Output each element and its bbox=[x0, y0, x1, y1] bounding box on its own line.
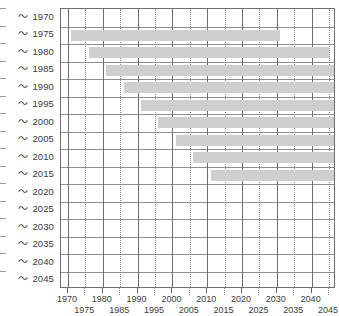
row-label-year: 1970 bbox=[32, 11, 54, 22]
row-label-year: 2015 bbox=[32, 168, 54, 179]
x-label-2005: 2005 bbox=[179, 305, 199, 315]
bar-2000 bbox=[158, 117, 335, 128]
row-label-2010: 〜 2010 bbox=[0, 152, 54, 162]
tilde-icon: 〜 bbox=[18, 46, 31, 57]
x-tick-minor-2025 bbox=[258, 288, 259, 295]
x-label-2015: 2015 bbox=[214, 305, 234, 315]
tilde-icon: 〜 bbox=[18, 186, 31, 197]
row-label-year: 2035 bbox=[32, 238, 54, 249]
tilde-icon: 〜 bbox=[18, 151, 31, 162]
bar-2010 bbox=[193, 152, 335, 163]
x-label-1980: 1980 bbox=[92, 294, 112, 304]
tilde-icon: 〜 bbox=[18, 238, 31, 249]
bar-1980 bbox=[89, 47, 329, 58]
gridline-minor-2045 bbox=[329, 9, 330, 287]
x-tick-minor-1975 bbox=[84, 288, 85, 295]
row-label-2000: 〜 2000 bbox=[0, 117, 54, 127]
x-tick-major-2010 bbox=[206, 288, 207, 293]
bar-2015 bbox=[211, 170, 335, 181]
row-label-1995: 〜 1995 bbox=[0, 99, 54, 109]
x-label-2035: 2035 bbox=[283, 305, 303, 315]
x-tick-minor-1985 bbox=[119, 288, 120, 295]
tilde-icon: 〜 bbox=[18, 63, 31, 74]
x-axis: 1970198019902000201020202030204019751985… bbox=[60, 288, 335, 316]
row-label-1985: 〜 1985 bbox=[0, 64, 54, 74]
row-label-year: 2045 bbox=[32, 273, 54, 284]
tilde-icon: 〜 bbox=[18, 116, 31, 127]
row-label-2035: 〜 2035 bbox=[0, 239, 54, 249]
row-label-year: 1975 bbox=[32, 28, 54, 39]
row-label-year: 2030 bbox=[32, 221, 54, 232]
x-tick-minor-2045 bbox=[328, 288, 329, 295]
tilde-icon: 〜 bbox=[18, 221, 31, 232]
tilde-icon: 〜 bbox=[18, 28, 31, 39]
tilde-icon: 〜 bbox=[18, 11, 31, 22]
x-label-2030: 2030 bbox=[266, 294, 286, 304]
gridline-minor-1975 bbox=[85, 9, 86, 287]
row-label-year: 2025 bbox=[32, 203, 54, 214]
row-label-2020: 〜 2020 bbox=[0, 187, 54, 197]
tilde-icon: 〜 bbox=[18, 256, 31, 267]
bar-1985 bbox=[106, 65, 335, 76]
gantt-chart: 〜 1970〜 1975〜 1980〜 1985〜 1990〜 1995〜 20… bbox=[0, 0, 339, 316]
x-tick-major-1980 bbox=[102, 288, 103, 293]
bar-2005 bbox=[176, 135, 335, 146]
row-label-year: 2005 bbox=[32, 133, 54, 144]
x-tick-major-1990 bbox=[137, 288, 138, 293]
x-label-1985: 1985 bbox=[109, 305, 129, 315]
x-label-1995: 1995 bbox=[144, 305, 164, 315]
x-tick-major-2000 bbox=[171, 288, 172, 293]
row-label-1990: 〜 1990 bbox=[0, 82, 54, 92]
row-label-1970: 〜 1970 bbox=[0, 12, 54, 22]
x-label-2045: 2045 bbox=[318, 305, 338, 315]
x-label-2040: 2040 bbox=[301, 294, 321, 304]
row-label-2040: 〜 2040 bbox=[0, 257, 54, 267]
bar-1995 bbox=[141, 100, 335, 111]
tilde-icon: 〜 bbox=[18, 273, 31, 284]
row-label-year: 1980 bbox=[32, 46, 54, 57]
bar-1975 bbox=[71, 30, 280, 41]
x-label-2000: 2000 bbox=[161, 294, 181, 304]
row-label-2015: 〜 2015 bbox=[0, 169, 54, 179]
row-label-year: 1985 bbox=[32, 63, 54, 74]
x-tick-minor-2035 bbox=[293, 288, 294, 295]
row-label-1980: 〜 1980 bbox=[0, 47, 54, 57]
x-tick-major-2040 bbox=[311, 288, 312, 293]
row-label-2005: 〜 2005 bbox=[0, 134, 54, 144]
row-label-year: 1995 bbox=[32, 98, 54, 109]
x-label-1970: 1970 bbox=[57, 294, 77, 304]
plot-area bbox=[60, 8, 335, 288]
row-label-year: 2000 bbox=[32, 116, 54, 127]
row-label-year: 2040 bbox=[32, 256, 54, 267]
tilde-icon: 〜 bbox=[18, 168, 31, 179]
x-label-1990: 1990 bbox=[127, 294, 147, 304]
row-label-year: 2010 bbox=[32, 151, 54, 162]
row-label-2045: 〜 2045 bbox=[0, 274, 54, 284]
tilde-icon: 〜 bbox=[18, 133, 31, 144]
x-tick-major-2030 bbox=[276, 288, 277, 293]
x-label-2025: 2025 bbox=[248, 305, 268, 315]
x-tick-major-1970 bbox=[67, 288, 68, 293]
x-tick-minor-2005 bbox=[189, 288, 190, 295]
row-label-2025: 〜 2025 bbox=[0, 204, 54, 214]
gridline-major-1970 bbox=[68, 9, 69, 287]
row-label-1975: 〜 1975 bbox=[0, 29, 54, 39]
row-label-axis: 〜 1970〜 1975〜 1980〜 1985〜 1990〜 1995〜 20… bbox=[0, 0, 60, 288]
row-label-2030: 〜 2030 bbox=[0, 222, 54, 232]
tilde-icon: 〜 bbox=[18, 203, 31, 214]
row-label-year: 2020 bbox=[32, 186, 54, 197]
row-label-year: 1990 bbox=[32, 81, 54, 92]
bar-1990 bbox=[124, 82, 335, 93]
x-label-1975: 1975 bbox=[74, 305, 94, 315]
tilde-icon: 〜 bbox=[18, 81, 31, 92]
x-label-2020: 2020 bbox=[231, 294, 251, 304]
x-label-2010: 2010 bbox=[196, 294, 216, 304]
tilde-icon: 〜 bbox=[18, 98, 31, 109]
x-tick-major-2020 bbox=[241, 288, 242, 293]
x-tick-minor-1995 bbox=[154, 288, 155, 295]
x-tick-minor-2015 bbox=[224, 288, 225, 295]
